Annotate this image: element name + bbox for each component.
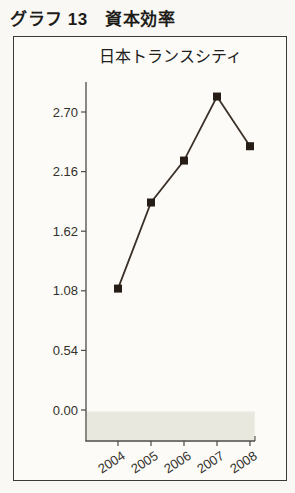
y-axis-tick-label: 2.70 [53, 105, 78, 120]
data-point-marker [246, 142, 254, 150]
negative-region-band [87, 412, 255, 441]
chart-subtitle: 日本トランスシティ [86, 43, 255, 67]
y-axis-tick-label: 2.16 [53, 164, 78, 179]
x-axis-tick-label: 2005 [128, 448, 160, 476]
data-point-marker [213, 93, 221, 101]
y-axis-tick-label: 0.54 [53, 343, 78, 358]
chart-canvas: 0.000.541.081.622.162.702004200520062007… [0, 0, 295, 493]
y-axis-tick-label: 0.00 [53, 403, 78, 418]
data-line [118, 97, 250, 289]
x-axis-tick-label: 2006 [161, 448, 193, 476]
y-axis-tick-label: 1.62 [53, 224, 78, 239]
data-point-marker [180, 157, 188, 165]
x-axis-tick-label: 2004 [95, 448, 127, 476]
data-point-marker [114, 285, 122, 293]
y-axis-tick-label: 1.08 [53, 283, 78, 298]
x-axis-tick-label: 2007 [194, 448, 226, 476]
data-point-marker [147, 199, 155, 207]
x-axis-tick-label: 2008 [227, 448, 259, 476]
